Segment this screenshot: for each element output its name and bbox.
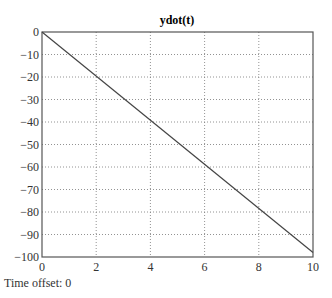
chart: ydot(t) 0246810 0−10−20−30−40−50−60−70−8… — [0, 0, 332, 298]
x-axis-ticks: 0246810 — [39, 260, 319, 274]
y-tick-label: −40 — [20, 115, 39, 129]
y-axis-ticks: 0−10−20−30−40−50−60−70−80−90−100 — [14, 25, 39, 264]
y-tick-label: −50 — [20, 138, 39, 152]
x-tick-label: 4 — [147, 260, 153, 274]
y-tick-label: −80 — [20, 205, 39, 219]
y-tick-label: −20 — [20, 70, 39, 84]
x-tick-label: 2 — [93, 260, 99, 274]
x-tick-label: 10 — [307, 260, 319, 274]
x-tick-label: 6 — [202, 260, 208, 274]
chart-title: ydot(t) — [160, 13, 195, 27]
y-tick-label: −60 — [20, 160, 39, 174]
x-tick-label: 8 — [256, 260, 262, 274]
y-tick-label: 0 — [33, 25, 39, 39]
y-tick-label: −30 — [20, 93, 39, 107]
x-tick-label: 0 — [39, 260, 45, 274]
y-tick-label: −100 — [14, 250, 39, 264]
y-tick-label: −10 — [20, 48, 39, 62]
time-offset-caption: Time offset: 0 — [4, 276, 71, 291]
y-tick-label: −70 — [20, 183, 39, 197]
data-line — [42, 32, 313, 253]
y-tick-label: −90 — [20, 228, 39, 242]
